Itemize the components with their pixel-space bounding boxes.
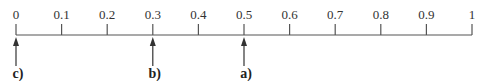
tick-label: 0.9 <box>418 7 434 22</box>
tick-group: 00.10.20.30.40.50.60.70.80.91 <box>13 7 476 35</box>
tick-label: 0.1 <box>53 7 69 22</box>
tick-label: 0.7 <box>327 7 344 22</box>
tick-label: 0.6 <box>281 7 298 22</box>
tick-label: 0.2 <box>99 7 115 22</box>
tick-label: 0.4 <box>190 7 207 22</box>
number-line-diagram: 00.10.20.30.40.50.60.70.80.91 c)b)a) <box>0 0 483 81</box>
arrow-head-icon <box>150 37 156 46</box>
arrow-head-icon <box>241 37 247 46</box>
marker-label: a) <box>240 66 252 81</box>
marker-label: b) <box>149 66 162 81</box>
marker-group: c)b)a) <box>13 37 253 81</box>
tick-label: 0.8 <box>373 7 389 22</box>
tick-label: 0.3 <box>145 7 161 22</box>
tick-label: 0 <box>13 7 20 22</box>
tick-label: 0.5 <box>236 7 252 22</box>
tick-label: 1 <box>469 7 476 22</box>
arrow-head-icon <box>13 37 19 46</box>
marker-label: c) <box>13 66 24 81</box>
